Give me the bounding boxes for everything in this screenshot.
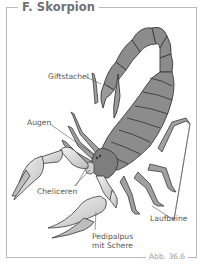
label-giftstachel: Giftstachel: [48, 72, 89, 81]
label-laufbeine: Laufbeine: [150, 214, 187, 223]
label-augen: Augen: [27, 118, 51, 127]
label-pedipalpus-line1: Pedipalpus: [92, 232, 133, 241]
label-cheliceren: Cheliceren: [37, 187, 77, 196]
right-pedipalp: [48, 176, 117, 238]
scorpion-illustration: [0, 0, 204, 270]
figure-caption: Abb. 36.6: [146, 251, 188, 263]
label-pedipalpus-line2: mit Schere: [92, 241, 133, 250]
label-pedipalpus: Pedipalpus mit Schere: [92, 232, 133, 250]
